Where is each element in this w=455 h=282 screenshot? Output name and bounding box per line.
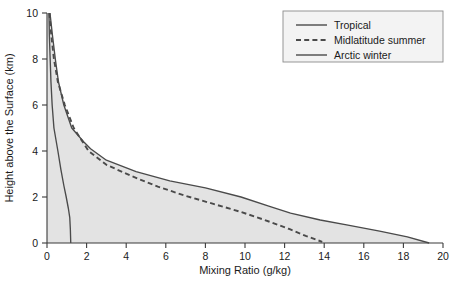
legend-label-midlatitude-summer: Midlatitude summer	[334, 34, 426, 46]
chart-figure: 02468101214161820 0246810 Mixing Ratio (…	[0, 0, 455, 282]
y-axis-ticks: 0246810	[26, 7, 47, 249]
x-tick-label: 20	[437, 250, 449, 262]
y-tick-label: 4	[32, 145, 38, 157]
x-tick-label: 14	[318, 250, 330, 262]
x-tick-label: 4	[123, 250, 129, 262]
x-tick-label: 18	[398, 250, 410, 262]
y-tick-label: 0	[32, 237, 38, 249]
y-tick-label: 8	[32, 53, 38, 65]
x-tick-label: 10	[239, 250, 251, 262]
y-axis-title: Height above the Surface (km)	[3, 53, 15, 202]
x-tick-label: 6	[163, 250, 169, 262]
x-axis-ticks: 02468101214161820	[44, 243, 449, 262]
x-axis-title: Mixing Ratio (g/kg)	[199, 264, 291, 276]
x-tick-label: 2	[84, 250, 90, 262]
y-tick-label: 6	[32, 99, 38, 111]
x-tick-label: 0	[44, 250, 50, 262]
mixing-ratio-profile-chart: 02468101214161820 0246810 Mixing Ratio (…	[0, 0, 455, 282]
y-tick-label: 10	[26, 7, 38, 19]
x-tick-label: 12	[279, 250, 291, 262]
legend-label-tropical: Tropical	[334, 19, 371, 31]
x-tick-label: 8	[202, 250, 208, 262]
x-tick-label: 16	[358, 250, 370, 262]
chart-legend: TropicalMidlatitude summerArctic winter	[283, 11, 443, 62]
y-tick-label: 2	[32, 191, 38, 203]
legend-label-arctic-winter: Arctic winter	[334, 49, 392, 61]
